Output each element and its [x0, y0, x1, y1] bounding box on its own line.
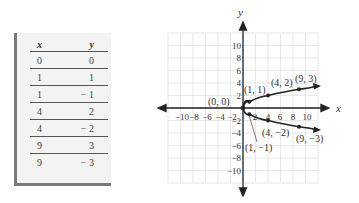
table-header-row: x y: [30, 37, 108, 52]
label-9-neg3: (9, −3): [296, 133, 323, 145]
cell-x: 9: [30, 137, 54, 154]
svg-text:10: 10: [232, 41, 242, 51]
x-axis-label: x: [335, 102, 341, 114]
svg-text:2: 2: [237, 91, 242, 101]
table-row: 93: [30, 137, 108, 154]
xy-table: x y 00 11 1− 1 42 4− 2 93 9− 3: [30, 37, 108, 170]
svg-text:6: 6: [237, 66, 242, 76]
svg-text:8: 8: [291, 112, 296, 122]
cell-x: 1: [30, 86, 54, 103]
table-row: 1− 1: [30, 86, 108, 103]
table-row: 00: [30, 52, 108, 69]
header-x: x: [30, 37, 54, 52]
label-4-neg2: (4, −2): [262, 127, 289, 139]
svg-text:−8: −8: [231, 153, 241, 163]
cell-y: − 2: [54, 120, 108, 137]
cell-y: − 3: [54, 154, 108, 171]
label-9-3: (9, 3): [295, 73, 317, 85]
table-row: 11: [30, 69, 108, 86]
cell-y: 0: [54, 52, 108, 69]
coordinate-graph: x y −10 −8 −6 −4 −2 2 4 6 8 10 −10 −8 −6…: [150, 0, 359, 203]
svg-text:−6: −6: [202, 112, 212, 122]
label-0-0: (0, 0): [208, 96, 230, 108]
svg-text:−10: −10: [227, 166, 242, 176]
cell-y: 2: [54, 103, 108, 120]
cell-x: 9: [30, 154, 54, 171]
cell-y: − 1: [54, 86, 108, 103]
svg-text:10: 10: [303, 112, 313, 122]
svg-text:−6: −6: [231, 141, 241, 151]
svg-text:6: 6: [278, 112, 283, 122]
svg-text:−8: −8: [189, 112, 199, 122]
table-row: 42: [30, 103, 108, 120]
label-1-1: (1, 1): [244, 84, 266, 96]
svg-text:4: 4: [237, 78, 242, 88]
svg-text:−4: −4: [231, 128, 241, 138]
label-4-2: (4, 2): [271, 77, 293, 89]
y-axis-label: y: [237, 6, 243, 18]
header-y: y: [54, 37, 108, 52]
cell-x: 0: [30, 52, 54, 69]
table-row: 9− 3: [30, 154, 108, 171]
xy-table-panel: x y 00 11 1− 1 42 4− 2 93 9− 3: [14, 33, 111, 186]
cell-x: 4: [30, 120, 54, 137]
table-row: 4− 2: [30, 120, 108, 137]
svg-text:−10: −10: [175, 112, 190, 122]
svg-text:−2: −2: [231, 116, 241, 126]
svg-text:8: 8: [237, 53, 242, 63]
svg-text:−4: −4: [215, 112, 225, 122]
cell-x: 1: [30, 69, 54, 86]
cell-y: 3: [54, 137, 108, 154]
label-1-neg1: (1, −1): [245, 142, 272, 154]
cell-y: 1: [54, 69, 108, 86]
cell-x: 4: [30, 103, 54, 120]
